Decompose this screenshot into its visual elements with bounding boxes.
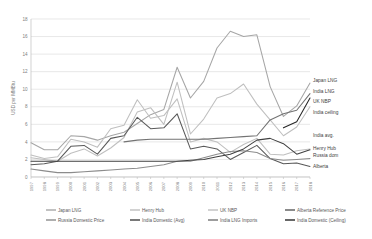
x-axis-tick-label: 1998 [42,181,47,191]
series-annotation-label: Japan LNG [313,78,338,83]
x-axis-tick-label: 2001 [82,181,87,191]
y-axis-tick-label: 2 [25,157,28,162]
series-annotation-label: UK NBP [313,99,331,104]
series-line [31,99,310,159]
legend-label: Russia Domestic Price [58,218,105,223]
x-axis-tick-labels: 1997199819992000200120022003200420052006… [29,177,313,191]
x-axis-tick-label: 2006 [148,181,153,191]
series-annotation-label: Henry Hub [313,146,336,151]
y-axis-tick-label: 10 [22,87,28,92]
x-axis-tick-label: 2012 [228,181,233,191]
y-axis-tick-label: 0 [25,175,28,180]
series-annotation-label: India avg. [313,133,334,138]
series-annotation-label: India ceiling [313,110,339,115]
x-axis-tick-label: 2004 [122,181,127,191]
legend-label: Henry Hub [142,208,164,213]
x-axis-tick-label: 2014 [254,181,259,191]
x-axis-tick-label: 1997 [29,181,34,191]
legend-label: Japan LNG [58,208,82,213]
y-axis-tick-label: 16 [22,34,28,39]
chart-canvas: 024681012141618USD per MMBtu199719981999… [0,0,372,239]
series-annotation-label: Russia dom [313,153,338,158]
x-axis-tick-label: 2005 [135,181,140,191]
line-chart: 024681012141618USD per MMBtu199719981999… [0,0,372,239]
y-axis-tick-label: 4 [25,140,28,145]
x-axis-tick-label: 2010 [201,181,206,191]
legend-label: India Domestic (Ceiling) [297,218,346,223]
series-annotation-label: Alberta [313,164,329,169]
legend: Japan LNGHenry HubUK NBPAlberta Referenc… [46,208,346,223]
y-axis-tick-label: 14 [22,52,28,57]
x-axis-tick-label: 2017 [294,181,299,191]
x-axis-tick-label: 2013 [241,181,246,191]
legend-label: Alberta Reference Price [297,208,346,213]
x-axis-tick-label: 1999 [55,181,60,191]
x-axis-tick-label: 2015 [268,181,273,191]
x-axis-tick-label: 2016 [281,181,286,191]
y-axis-tick-label: 12 [22,69,28,74]
x-axis-tick-label: 2003 [108,181,113,191]
y-axis-tick-label: 18 [22,17,28,22]
series-annotation-label: India LNG [313,89,335,94]
annotations: Japan LNGIndia LNGUK NBPIndia ceilingInd… [313,78,339,169]
y-axis-tick-label: 8 [25,104,28,109]
y-axis-tick-label: 6 [25,122,28,127]
series-group [31,31,310,172]
y-axis-title: USD per MMBtu [11,81,16,115]
x-axis-tick-label: 2009 [188,181,193,191]
series-line [31,31,310,149]
legend-label: India Domestic (Avg) [142,218,185,223]
x-axis-tick-label: 2007 [161,181,166,191]
legend-label: UK NBP [220,208,237,213]
x-axis-tick-label: 2000 [68,181,73,191]
x-axis-tick-label: 2008 [175,181,180,191]
x-axis-tick-label: 2002 [95,181,100,191]
legend-label: India LNG Imports [220,218,258,223]
x-axis-tick-label: 2011 [215,181,220,191]
x-axis-tick-label: 2018 [308,181,313,191]
